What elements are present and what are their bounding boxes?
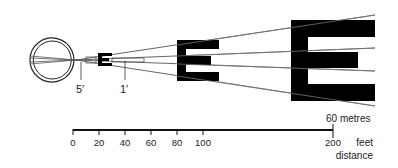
- distance-scale: 0 20 40 60 80 100 200 60 metres feet dis…: [70, 113, 373, 161]
- letter-e-medium: [177, 40, 219, 81]
- letter-e-small: [98, 53, 112, 66]
- letter-e-large: [291, 20, 375, 101]
- angle-label-1: 1′: [120, 83, 128, 95]
- metres-label: 60 metres: [326, 113, 370, 124]
- tick-20: 20: [94, 137, 105, 148]
- tick-60: 60: [146, 137, 157, 148]
- feet-label: feet: [356, 137, 373, 148]
- acuity-diagram: 5′ 1′ 0 20 40 60 80 100 200 60 metres fe…: [0, 0, 398, 168]
- eye-icon: [30, 38, 76, 82]
- distance-label: distance: [336, 150, 374, 161]
- tick-40: 40: [120, 137, 131, 148]
- angle-label-5: 5′: [76, 83, 84, 95]
- tick-80: 80: [172, 137, 183, 148]
- tick-0: 0: [70, 137, 75, 148]
- tick-200: 200: [325, 137, 341, 148]
- tick-100: 100: [195, 137, 211, 148]
